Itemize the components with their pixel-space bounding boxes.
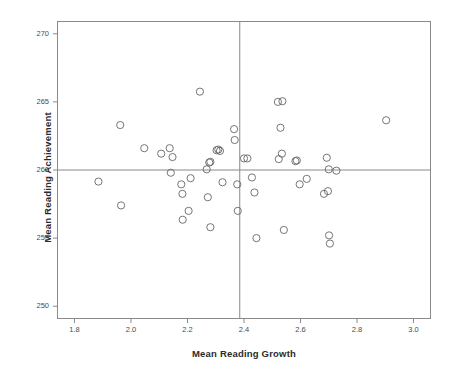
data-point (275, 156, 282, 163)
scatter-plot-canvas (0, 0, 458, 377)
data-point (251, 189, 258, 196)
data-point (179, 216, 186, 223)
data-point (333, 167, 340, 174)
data-point (383, 117, 390, 124)
data-point-group (95, 88, 390, 247)
x-tick-label: 2.2 (167, 325, 207, 334)
data-point (117, 202, 124, 209)
data-point (326, 240, 333, 247)
data-point (179, 190, 186, 197)
data-point (141, 145, 148, 152)
data-point (296, 181, 303, 188)
data-point (279, 98, 286, 105)
x-tick-label: 2.8 (337, 325, 377, 334)
data-point (231, 136, 238, 143)
data-point (253, 235, 260, 242)
x-axis-title: Mean Reading Growth (57, 348, 431, 359)
data-point (207, 224, 214, 231)
reference-lines (58, 22, 431, 319)
data-point (231, 126, 238, 133)
x-tick-label: 2.6 (281, 325, 321, 334)
data-point (203, 166, 210, 173)
data-point (169, 153, 176, 160)
tick-marks (53, 34, 414, 323)
data-point (325, 166, 332, 173)
data-point (166, 145, 173, 152)
x-tick-label: 3.0 (394, 325, 434, 334)
data-point (178, 181, 185, 188)
data-point (303, 175, 310, 182)
y-tick-label: 250 (19, 301, 49, 310)
data-point (187, 175, 194, 182)
data-point (280, 226, 287, 233)
x-tick-label: 2.0 (111, 325, 151, 334)
data-point (248, 174, 255, 181)
data-point (185, 207, 192, 214)
y-tick-label: 260 (19, 165, 49, 174)
y-tick-label: 265 (19, 97, 49, 106)
data-point (158, 150, 165, 157)
data-point (219, 179, 226, 186)
data-point (325, 232, 332, 239)
data-point (117, 121, 124, 128)
data-point (277, 124, 284, 131)
scatter-plot-figure: Mean Reading Achievement Mean Reading Gr… (0, 0, 458, 377)
data-point (234, 207, 241, 214)
x-tick-label: 1.8 (54, 325, 94, 334)
y-tick-label: 270 (19, 29, 49, 38)
data-point (204, 194, 211, 201)
data-point (196, 88, 203, 95)
y-tick-label: 255 (19, 233, 49, 242)
data-point (95, 178, 102, 185)
data-point (323, 154, 330, 161)
x-tick-label: 2.4 (224, 325, 264, 334)
data-point (278, 150, 285, 157)
